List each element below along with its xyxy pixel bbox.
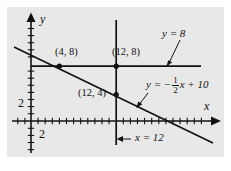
point-marker-4-8 xyxy=(57,64,62,69)
callout-x12-text: x = 12 xyxy=(135,131,164,143)
equation-prefix: y = − xyxy=(146,78,171,90)
x-axis-label: x xyxy=(204,100,209,112)
point-marker-12-8 xyxy=(114,64,119,69)
point-label-12-4: (12, 4) xyxy=(78,88,106,99)
callout-x-equals-12: x = 12 xyxy=(135,132,164,143)
x-axis-tick-label: 2 xyxy=(39,128,45,140)
y8-leader-line xyxy=(167,40,181,67)
equation-fraction: 12 xyxy=(172,76,179,96)
callout-y-equals-8: y = 8 xyxy=(162,28,185,39)
equation-numerator: 1 xyxy=(172,76,179,85)
equation-suffix: x + 10 xyxy=(180,78,209,90)
coordinate-plane-figure: y x 2 2 (4, 8) (12, 8) (12, 4) y = 8 x =… xyxy=(0,0,231,171)
y-axis xyxy=(27,13,36,154)
point-label-12-8: (12, 8) xyxy=(112,47,140,58)
y-axis-label: y xyxy=(40,13,45,25)
equation-denominator: 2 xyxy=(172,85,179,95)
callout-y8-text: y = 8 xyxy=(162,27,185,39)
point-label-4-8: (4, 8) xyxy=(55,47,78,58)
callout-sloped-equation: y = −12x + 10 xyxy=(146,76,209,96)
y-axis-tick-label: 2 xyxy=(18,97,24,109)
point-marker-12-4 xyxy=(114,92,119,97)
x12-leader-line xyxy=(117,136,131,142)
